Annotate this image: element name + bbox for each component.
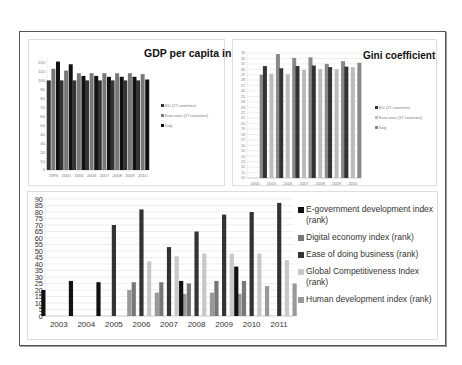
bar (107, 77, 111, 170)
bar (230, 254, 234, 316)
y-tick-label: 15 (241, 149, 245, 153)
bar (187, 284, 191, 317)
bar (222, 215, 226, 316)
gdp-chart-panel: GDP per capita in PPS 010203040506070809… (28, 39, 225, 186)
x-tick-label: 2006 (283, 181, 293, 186)
legend-item: Euro area (17 countries) (161, 113, 216, 118)
bar (179, 281, 183, 316)
bar (69, 64, 73, 170)
x-tick-label: 2006 (87, 173, 97, 178)
x-tick-label: 2000 (251, 181, 261, 186)
bar (115, 73, 119, 170)
bar (159, 282, 163, 316)
y-tick-label: 120 (38, 60, 46, 65)
bar (147, 261, 151, 316)
x-tick-label: 2007 (300, 181, 310, 186)
y-tick-label: 27 (241, 84, 245, 88)
legend-label: Human development index (rank) (306, 294, 432, 305)
bar (242, 281, 246, 316)
legend-label: Digital economy index (rank) (306, 232, 414, 243)
y-tick-label: 13 (241, 160, 245, 164)
x-tick-label: 2007 (100, 173, 110, 178)
bar (69, 281, 73, 316)
legend-item: EU (27 countries) (161, 103, 216, 108)
legend-label: Ease of doing business (rank) (306, 249, 418, 260)
bar (141, 74, 145, 170)
bar (265, 286, 269, 316)
y-tick-label: 23 (241, 106, 245, 110)
y-tick-label: 90 (40, 87, 45, 92)
y-tick-label: 17 (241, 138, 245, 142)
y-tick-label: 10 (241, 176, 245, 180)
bar (296, 66, 300, 178)
legend-swatch-icon (298, 269, 304, 275)
bar (127, 290, 131, 316)
legend-label: Italy (379, 125, 386, 130)
bar (102, 73, 106, 170)
bar (335, 69, 339, 178)
bar (132, 77, 136, 170)
legend-swatch-icon (375, 116, 378, 119)
x-tick-label: 2008 (316, 181, 326, 186)
y-tick-label: 19 (241, 127, 245, 131)
legend-swatch-icon (298, 252, 304, 258)
legend-swatch-icon (298, 235, 304, 241)
legend-item: Euro area (17 countries) (375, 115, 430, 120)
y-tick-label: 110 (38, 69, 45, 74)
bar (120, 77, 124, 170)
y-tick-label: 30 (40, 141, 45, 146)
gini-chart-panel: Gini coefficient 10111213141516171819202… (232, 39, 437, 186)
x-tick-label: 2010 (243, 320, 261, 329)
bar (98, 80, 102, 170)
bar (41, 290, 45, 316)
bar (112, 225, 116, 316)
y-tick-label: 31 (241, 62, 245, 66)
bar (85, 80, 89, 170)
legend-item: Global Competitiveness Index (rank) (298, 266, 436, 288)
y-tick-label: 33 (241, 51, 245, 55)
y-tick-label: 80 (40, 96, 45, 101)
bar (51, 69, 55, 170)
x-tick-label: 2011 (271, 320, 289, 329)
x-tick-label: 2009 (125, 173, 135, 178)
legend-label: E-government development index (rank) (306, 204, 436, 226)
legend-label: Italy (165, 123, 172, 128)
bar (94, 76, 98, 170)
bar (263, 66, 267, 178)
bar (47, 80, 51, 170)
y-tick-label: 100 (38, 78, 46, 83)
bar (302, 70, 306, 178)
y-tick-label: 18 (241, 133, 245, 137)
bar (269, 74, 273, 178)
y-tick-label: 60 (40, 114, 45, 119)
bar (111, 80, 115, 170)
y-tick-label: 16 (241, 144, 245, 148)
bar (318, 69, 322, 178)
y-tick-label: 21 (241, 116, 245, 120)
legend-item: Digital economy index (rank) (298, 232, 436, 243)
bar (234, 267, 238, 316)
bar (139, 209, 143, 316)
y-tick-label: 12 (241, 165, 245, 169)
bar (96, 282, 100, 316)
bar (64, 71, 68, 170)
bar (155, 293, 159, 316)
y-tick-label: 11 (241, 171, 245, 175)
x-tick-label: 2008 (188, 320, 206, 329)
bar (167, 247, 171, 316)
y-tick-label: 20 (241, 122, 245, 126)
legend-item: Human development index (rank) (298, 294, 436, 305)
x-tick-label: 2005 (105, 320, 123, 329)
legend-label: Euro area (17 countries) (379, 115, 422, 120)
y-tick-label: 26 (241, 89, 245, 93)
legend-label: EU (27 countries) (165, 103, 196, 108)
legend-item: Ease of doing business (rank) (298, 249, 436, 260)
bar (56, 62, 60, 170)
bar (312, 66, 316, 179)
legend-item: Italy (375, 125, 430, 130)
x-tick-label: 2009 (332, 181, 342, 186)
gdp-legend: EU (27 countries)Euro area (17 countries… (161, 103, 216, 133)
bar (293, 284, 297, 317)
figure-frame: GDP per capita in PPS 010203040506070809… (19, 31, 446, 346)
x-tick-label: 2010 (348, 181, 358, 186)
